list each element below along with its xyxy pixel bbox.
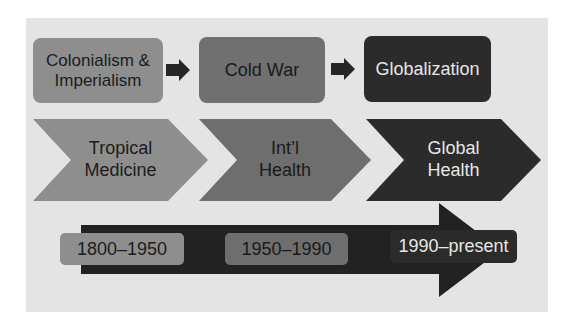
era-colonialism-line2: Imperialism <box>46 71 150 91</box>
period-label: 1800–1950 <box>77 239 167 260</box>
right-arrow-icon <box>166 59 190 81</box>
field-intl-line1: Int’l <box>259 138 311 160</box>
era-globalization-box: Globalization <box>364 36 491 102</box>
period-label: 1990–present <box>398 236 508 257</box>
field-tropical-line1: Tropical <box>84 138 156 160</box>
field-tropical-medicine-chevron: Tropical Medicine <box>33 119 208 201</box>
field-intl-health-chevron: Int’l Health <box>199 119 371 201</box>
era-colonialism-line1: Colonialism & <box>46 51 150 71</box>
period-1950-1990: 1950–1990 <box>225 233 348 265</box>
field-tropical-line2: Medicine <box>84 160 156 182</box>
era-globalization-label: Globalization <box>375 59 479 80</box>
period-label: 1950–1990 <box>241 239 331 260</box>
period-1990-present: 1990–present <box>390 230 517 263</box>
era-cold-war-box: Cold War <box>199 37 325 103</box>
field-global-health-chevron: Global Health <box>366 119 541 201</box>
period-1800-1950: 1800–1950 <box>60 233 184 265</box>
field-intl-line2: Health <box>259 160 311 182</box>
era-cold-war-label: Cold War <box>225 60 299 81</box>
right-arrow-icon <box>331 58 355 80</box>
era-colonialism-box: Colonialism & Imperialism <box>33 38 163 103</box>
field-global-line1: Global <box>427 138 479 160</box>
field-global-line2: Health <box>427 160 479 182</box>
